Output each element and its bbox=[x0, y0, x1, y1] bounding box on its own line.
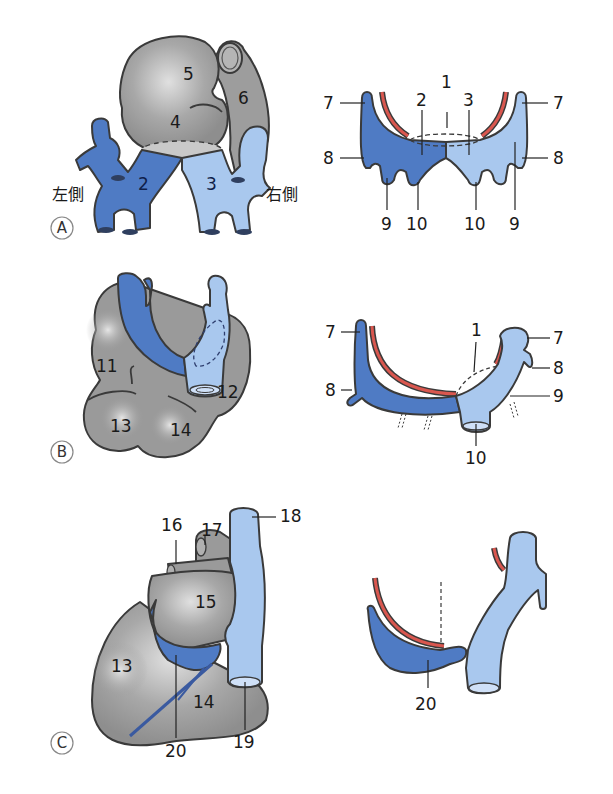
panel-c-badge: C bbox=[51, 732, 73, 754]
panel-c-left-heart bbox=[92, 508, 276, 745]
label-9-left: 9 bbox=[381, 214, 392, 234]
label-19: 19 bbox=[233, 732, 255, 752]
panel-letter-a: A bbox=[57, 219, 68, 237]
label-9: 9 bbox=[553, 386, 564, 406]
label-2: 2 bbox=[416, 90, 427, 110]
panel-c-right-sinus bbox=[368, 532, 546, 693]
panel-b-right-sinus bbox=[341, 320, 550, 446]
label-8-left: 8 bbox=[325, 380, 336, 400]
label-10: 10 bbox=[465, 448, 487, 468]
label-13: 13 bbox=[111, 656, 133, 676]
label-20: 20 bbox=[165, 741, 187, 761]
label-9-right: 9 bbox=[509, 214, 520, 234]
label-11: 11 bbox=[96, 356, 118, 376]
label-4: 4 bbox=[170, 112, 181, 132]
label-7-right: 7 bbox=[553, 328, 564, 348]
label-3: 3 bbox=[463, 90, 474, 110]
label-7-left: 7 bbox=[325, 322, 336, 342]
label-15: 15 bbox=[195, 592, 217, 612]
label-18: 18 bbox=[280, 506, 302, 526]
left-side-label: 左側 bbox=[52, 185, 84, 204]
label-2: 2 bbox=[138, 174, 149, 194]
panel-b-badge: B bbox=[51, 441, 73, 463]
panel-a-badge: A bbox=[51, 217, 73, 239]
label-20: 20 bbox=[415, 694, 437, 714]
label-8-right: 8 bbox=[553, 148, 564, 168]
label-8-left: 8 bbox=[323, 148, 334, 168]
label-12: 12 bbox=[217, 382, 239, 402]
label-16: 16 bbox=[161, 515, 183, 535]
label-1: 1 bbox=[471, 320, 482, 340]
panel-letter-c: C bbox=[57, 734, 67, 752]
right-side-label: 右側 bbox=[266, 185, 298, 204]
label-10-right: 10 bbox=[464, 214, 486, 234]
label-7-right: 7 bbox=[553, 93, 564, 113]
panel-a-left-heart bbox=[76, 36, 270, 235]
label-5: 5 bbox=[183, 64, 194, 84]
label-13: 13 bbox=[110, 416, 132, 436]
label-1: 1 bbox=[441, 72, 452, 92]
label-8-right: 8 bbox=[553, 358, 564, 378]
label-6: 6 bbox=[238, 88, 249, 108]
label-3: 3 bbox=[206, 174, 217, 194]
label-17: 17 bbox=[201, 520, 223, 540]
label-14: 14 bbox=[170, 420, 192, 440]
label-7-left: 7 bbox=[323, 93, 334, 113]
label-14: 14 bbox=[193, 692, 215, 712]
panel-a-right-sinus bbox=[340, 92, 548, 210]
embryonic-heart-sinus-venosus-diagram: 5 6 4 2 3 左側 右側 A 1 2 3 7 7 8 8 9 10 10 … bbox=[0, 0, 613, 794]
panel-letter-b: B bbox=[57, 443, 67, 461]
label-10-left: 10 bbox=[406, 214, 428, 234]
